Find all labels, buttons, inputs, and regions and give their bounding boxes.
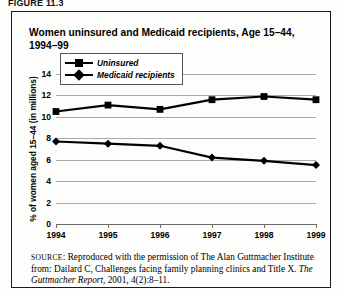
diamond-marker-icon	[65, 69, 93, 81]
data-point-marker	[261, 93, 268, 100]
figure-label: FIGURE 11.3	[8, 0, 64, 8]
source-prefix: SOURCE	[31, 253, 63, 262]
source-text-before: : Reproduced with the permission of The …	[31, 252, 314, 274]
x-axis-tick-label: 1997	[202, 230, 221, 240]
series-lines	[56, 74, 316, 224]
x-axis-tick-mark	[212, 224, 213, 228]
x-axis-tick-label: 1998	[254, 230, 273, 240]
source-text-after: , 2001, 4(2):8–11.	[103, 275, 170, 285]
series-line	[56, 142, 316, 166]
x-axis-tick-mark	[264, 224, 265, 228]
x-axis-tick-label: 1999	[306, 230, 325, 240]
chart-legend: Uninsured Medicaid recipients	[60, 53, 183, 85]
series-line	[56, 97, 316, 112]
data-point-marker	[53, 108, 60, 115]
data-point-marker	[156, 142, 164, 150]
x-axis-tick-mark	[108, 224, 109, 228]
y-axis-label: % of women aged 15–44 (in millions)	[26, 74, 40, 224]
x-axis-tick-mark	[316, 224, 317, 228]
legend-label: Uninsured	[97, 58, 138, 68]
x-axis-tick-mark	[56, 224, 57, 228]
legend-item-uninsured: Uninsured	[65, 57, 175, 69]
data-point-marker	[52, 138, 60, 146]
y-axis-tick-label: 0	[46, 219, 51, 229]
legend-item-medicaid: Medicaid recipients	[65, 69, 175, 81]
source-note: SOURCE: Reproduced with the permission o…	[31, 252, 319, 287]
y-axis-tick-label: 14	[41, 69, 51, 79]
x-axis-tick-mark	[160, 224, 161, 228]
y-axis-tick-label: 8	[46, 133, 51, 143]
data-point-marker	[313, 96, 320, 103]
data-point-marker	[157, 106, 164, 113]
x-axis-tick-label: 1994	[46, 230, 65, 240]
square-marker-icon	[65, 57, 93, 69]
plot-inner: 02468101214 199419951996199719981999	[56, 74, 316, 224]
y-axis-tick-label: 12	[41, 90, 51, 100]
data-point-marker	[260, 157, 268, 165]
data-point-marker	[312, 161, 320, 169]
y-axis-tick-label: 2	[46, 198, 51, 208]
y-axis-tick-label: 4	[46, 176, 51, 186]
data-point-marker	[208, 154, 216, 162]
chart-title: Women uninsured and Medicaid recipients,…	[29, 26, 317, 52]
plot-area: 02468101214 199419951996199719981999	[56, 74, 316, 224]
y-axis-tick-label: 6	[46, 155, 51, 165]
x-axis-line	[56, 224, 316, 225]
data-point-marker	[209, 96, 216, 103]
x-axis-tick-label: 1995	[98, 230, 117, 240]
x-axis-tick-label: 1996	[150, 230, 169, 240]
data-point-marker	[104, 140, 112, 148]
legend-label: Medicaid recipients	[97, 70, 175, 80]
y-axis-tick-label: 10	[41, 112, 51, 122]
figure-frame: Women uninsured and Medicaid recipients,…	[11, 11, 331, 288]
data-point-marker	[105, 102, 112, 109]
